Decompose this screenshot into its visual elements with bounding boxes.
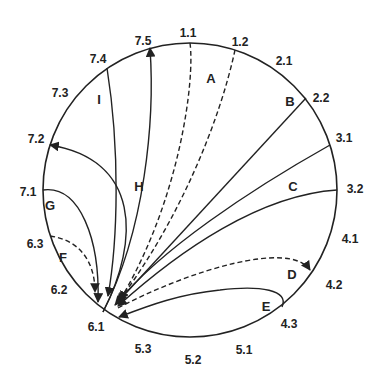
region-label-d: D [287, 267, 296, 282]
boundary-label-7-1: 7.1 [20, 185, 37, 199]
region-label-b: B [285, 94, 294, 109]
boundary-label-4-3: 4.3 [281, 317, 298, 331]
boundary-label-7-4: 7.4 [90, 52, 107, 66]
region-label-a: A [206, 71, 216, 86]
boundary-labels-layer: 1.11.22.12.23.13.24.14.24.35.15.25.36.16… [20, 26, 364, 367]
boundary-label-4-1: 4.1 [342, 232, 359, 246]
circular-transition-diagram: 1.11.22.12.23.13.24.14.24.35.15.25.36.16… [0, 0, 381, 377]
region-label-h: H [134, 179, 143, 194]
boundary-label-4-2: 4.2 [326, 278, 343, 292]
curve-a-right [118, 50, 235, 302]
boundary-label-7-5: 7.5 [135, 34, 152, 48]
boundary-label-1-1: 1.1 [180, 26, 197, 40]
boundary-label-5-1: 5.1 [236, 343, 253, 357]
boundary-label-6-3: 6.3 [27, 237, 44, 251]
boundary-label-2-2: 2.2 [313, 91, 330, 105]
curve-e [119, 288, 283, 317]
curve-d [118, 258, 310, 308]
region-label-i: I [97, 92, 101, 107]
boundary-label-7-3: 7.3 [52, 86, 69, 100]
boundary-label-5-2: 5.2 [185, 353, 202, 367]
diagram-canvas: 1.11.22.12.23.13.24.14.24.35.15.25.36.16… [0, 0, 381, 377]
boundary-label-6-1: 6.1 [88, 320, 105, 334]
boundary-label-6-2: 6.2 [51, 283, 68, 297]
boundary-label-1-2: 1.2 [232, 35, 249, 49]
region-labels-layer: ABCDEFGHI [45, 71, 298, 314]
region-label-f: F [59, 250, 67, 265]
region-label-e: E [262, 299, 271, 314]
region-label-c: C [288, 179, 298, 194]
boundary-label-3-2: 3.2 [347, 182, 364, 196]
boundary-label-2-1: 2.1 [276, 54, 293, 68]
boundary-label-5-3: 5.3 [135, 342, 152, 356]
boundary-label-7-2: 7.2 [28, 132, 45, 146]
region-label-g: G [45, 198, 55, 213]
boundary-label-3-1: 3.1 [336, 131, 353, 145]
